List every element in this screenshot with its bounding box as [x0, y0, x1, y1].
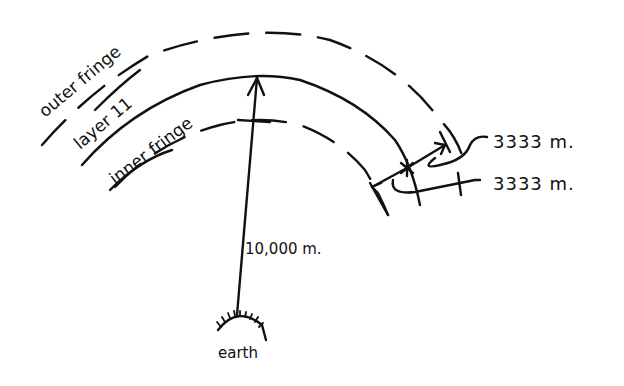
earth-arc: [218, 316, 266, 340]
inner-fringe-label: inner fringe: [105, 113, 196, 188]
inner-thickness-leader: [393, 180, 480, 193]
inner-thickness-label: 3333 m.: [493, 173, 575, 194]
outer-thickness-leader: [429, 137, 487, 167]
earth-label: earth: [218, 344, 258, 362]
inner-thickness-tick: [458, 173, 461, 195]
outer-thickness-label: 3333 m.: [493, 131, 575, 152]
radius-label: 10,000 m.: [245, 240, 322, 258]
layer-diagram: outer fringe layer 11 inner fringe 10,00…: [0, 0, 624, 386]
outer-fringe-end-tick: [440, 132, 450, 152]
radius-arrow-line: [237, 78, 257, 315]
inner-fringe-end-tick: [370, 183, 388, 215]
